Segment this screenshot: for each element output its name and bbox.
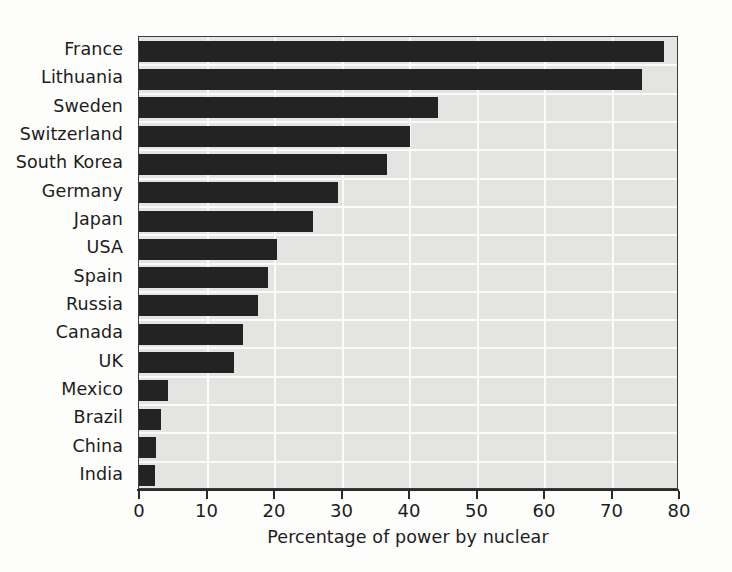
gridline-horizontal xyxy=(139,93,677,95)
category-label-russia: Russia xyxy=(0,294,131,314)
x-tick xyxy=(341,491,343,499)
x-tick-label: 60 xyxy=(524,500,564,521)
bar xyxy=(139,437,156,458)
gridline-horizontal xyxy=(139,234,677,236)
category-label-uk: UK xyxy=(0,351,131,371)
category-label-canada: Canada xyxy=(0,322,131,342)
x-tick xyxy=(678,491,680,499)
x-tick xyxy=(138,491,140,499)
gridline-horizontal xyxy=(139,291,677,293)
bar xyxy=(139,267,268,288)
gridline-horizontal xyxy=(139,64,677,66)
gridline-horizontal xyxy=(139,319,677,321)
gridline-horizontal xyxy=(139,432,677,434)
x-tick-label: 40 xyxy=(389,500,429,521)
gridline-horizontal xyxy=(139,376,677,378)
bar xyxy=(139,465,155,486)
bar xyxy=(139,352,234,373)
x-tick-label: 20 xyxy=(254,500,294,521)
bar xyxy=(139,380,168,401)
category-label-switzerland: Switzerland xyxy=(0,124,131,144)
gridline-horizontal xyxy=(139,149,677,151)
category-label-mexico: Mexico xyxy=(0,379,131,399)
category-label-south-korea: South Korea xyxy=(0,152,131,172)
x-tick-label: 0 xyxy=(119,500,159,521)
category-label-sweden: Sweden xyxy=(0,96,131,116)
plot-area xyxy=(138,36,678,489)
bar xyxy=(139,211,313,232)
category-label-france: France xyxy=(0,39,131,59)
category-label-lithuania: Lithuania xyxy=(0,67,131,87)
x-tick xyxy=(273,491,275,499)
x-axis-title: Percentage of power by nuclear xyxy=(138,527,678,547)
x-tick xyxy=(408,491,410,499)
x-tick xyxy=(476,491,478,499)
category-label-usa: USA xyxy=(0,237,131,257)
gridline-horizontal xyxy=(139,121,677,123)
x-tick-label: 30 xyxy=(322,500,362,521)
category-label-china: China xyxy=(0,436,131,456)
x-tick xyxy=(611,491,613,499)
category-axis-labels: FranceLithuaniaSwedenSwitzerlandSouth Ko… xyxy=(0,36,131,489)
bar xyxy=(139,239,277,260)
gridline-horizontal xyxy=(139,206,677,208)
x-tick-label: 70 xyxy=(592,500,632,521)
bar xyxy=(139,154,387,175)
bar-chart: FranceLithuaniaSwedenSwitzerlandSouth Ko… xyxy=(0,0,732,572)
x-tick-label: 80 xyxy=(659,500,699,521)
gridline-horizontal xyxy=(139,178,677,180)
bar xyxy=(139,69,642,90)
category-label-japan: Japan xyxy=(0,209,131,229)
category-label-brazil: Brazil xyxy=(0,407,131,427)
bar xyxy=(139,41,664,62)
bar xyxy=(139,295,258,316)
bar xyxy=(139,182,338,203)
gridline-horizontal xyxy=(139,263,677,265)
gridline-horizontal xyxy=(139,461,677,463)
x-tick-label: 10 xyxy=(187,500,227,521)
bar xyxy=(139,126,410,147)
x-tick xyxy=(543,491,545,499)
category-label-germany: Germany xyxy=(0,181,131,201)
gridline-horizontal xyxy=(139,347,677,349)
bar xyxy=(139,409,161,430)
category-label-spain: Spain xyxy=(0,266,131,286)
bar xyxy=(139,97,438,118)
x-tick xyxy=(206,491,208,499)
category-label-india: India xyxy=(0,464,131,484)
x-tick-label: 50 xyxy=(457,500,497,521)
gridline-horizontal xyxy=(139,404,677,406)
bar xyxy=(139,324,243,345)
